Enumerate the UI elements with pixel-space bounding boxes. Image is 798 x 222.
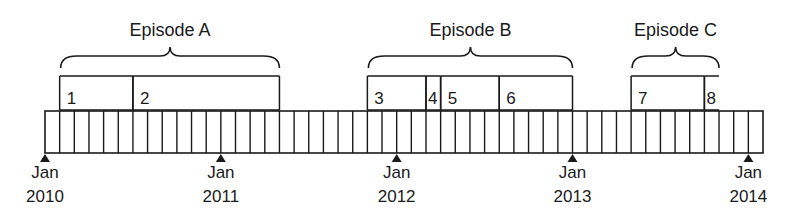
marker-year-label: 2013 (554, 187, 592, 206)
marker-month-label: Jan (207, 163, 234, 182)
segment-box: 4 (426, 76, 441, 110)
timeline-grid (45, 111, 763, 153)
segment-number-label: 3 (374, 89, 383, 108)
segment-box: 2 (133, 76, 280, 110)
year-marker: Jan2010 (26, 154, 64, 206)
segment-number-label: 4 (428, 89, 437, 108)
segment-number-label: 1 (67, 89, 76, 108)
marker-month-label: Jan (383, 163, 410, 182)
episode-segments: 12345678 (60, 76, 719, 110)
curly-brace-icon (632, 47, 719, 68)
marker-year-label: 2011 (203, 187, 240, 206)
segment-number-label: 7 (638, 89, 647, 108)
segment-box: 7 (631, 76, 704, 110)
marker-year-label: 2012 (378, 187, 416, 206)
marker-year-label: 2014 (729, 187, 767, 206)
segment-number-label: 6 (506, 89, 515, 108)
curly-brace-icon (61, 47, 280, 68)
segment-number-label: 2 (140, 89, 149, 108)
segment-box: 8 (704, 76, 719, 110)
segment-box: 5 (441, 76, 500, 110)
curly-brace-icon (368, 47, 572, 68)
episode-label: Episode A (130, 20, 211, 40)
marker-month-label: Jan (31, 163, 58, 182)
marker-year-label: 2010 (26, 187, 64, 206)
year-marker: Jan2012 (378, 154, 416, 206)
segment-number-label: 8 (706, 89, 715, 108)
year-marker: Jan2011 (203, 154, 240, 206)
triangle-marker-icon (40, 154, 50, 162)
segment-number-label: 5 (448, 89, 457, 108)
marker-month-label: Jan (735, 163, 762, 182)
year-markers: Jan2010Jan2011Jan2012Jan2013Jan2014 (26, 154, 767, 206)
triangle-marker-icon (392, 154, 402, 162)
episode-label: Episode B (429, 20, 511, 40)
episode-label: Episode C (634, 20, 717, 40)
episode-group: Episode C (632, 20, 719, 68)
episode-braces: Episode AEpisode BEpisode C (61, 20, 719, 68)
triangle-marker-icon (743, 154, 753, 162)
year-marker: Jan2013 (554, 154, 592, 206)
timeline-bar (45, 111, 763, 153)
segment-box: 1 (60, 76, 133, 110)
triangle-marker-icon (216, 154, 226, 162)
episode-timeline-diagram: Jan2010Jan2011Jan2012Jan2013Jan2014 1234… (0, 0, 798, 222)
episode-group: Episode A (61, 20, 280, 68)
triangle-marker-icon (568, 154, 578, 162)
segment-box: 3 (367, 76, 426, 110)
episode-group: Episode B (368, 20, 572, 68)
marker-month-label: Jan (559, 163, 586, 182)
segment-box: 6 (499, 76, 572, 110)
year-marker: Jan2014 (729, 154, 767, 206)
